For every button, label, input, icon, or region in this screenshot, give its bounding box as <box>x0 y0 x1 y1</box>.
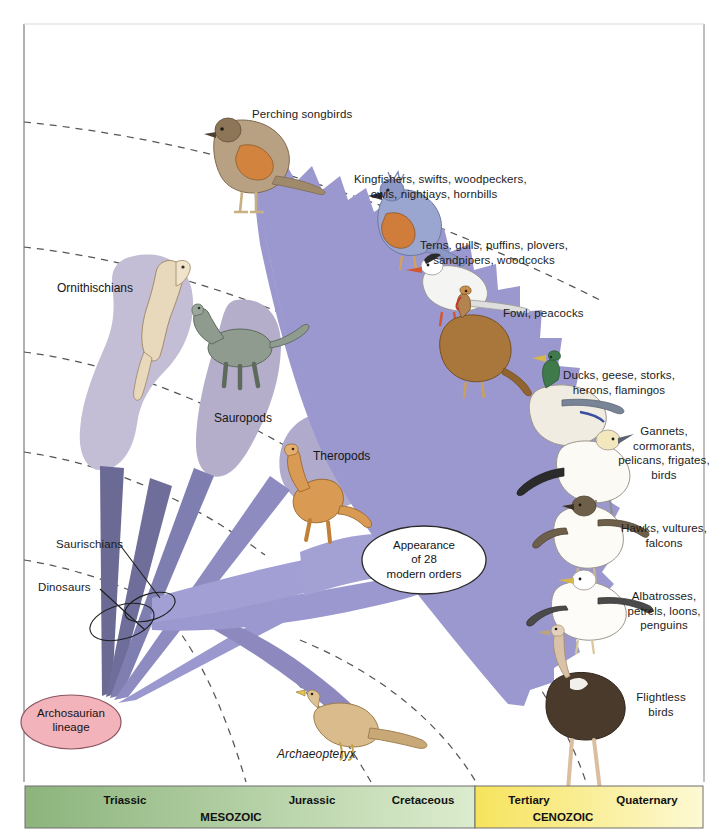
timeline-layer <box>0 0 728 837</box>
figure-root: Archosaurian lineage Appearance of 28 mo… <box>0 0 728 837</box>
period-label-quaternary: Quaternary <box>602 794 692 806</box>
diagram-stage: Archosaurian lineage Appearance of 28 mo… <box>0 0 728 837</box>
period-label-triassic: Triassic <box>85 794 165 806</box>
period-label-tertiary: Tertiary <box>489 794 569 806</box>
era-label-cenozoic: CENOZOIC <box>513 811 613 823</box>
era-label-mesozoic: MESOZOIC <box>181 811 281 823</box>
period-label-cretaceous: Cretaceous <box>378 794 468 806</box>
period-label-jurassic: Jurassic <box>272 794 352 806</box>
